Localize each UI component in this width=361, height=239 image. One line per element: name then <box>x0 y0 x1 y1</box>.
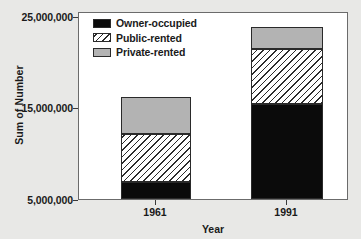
plot-inner: Owner-occupied Public-rented Private-ren… <box>79 13 347 199</box>
bar-1991-segment-private-rented[interactable] <box>251 27 323 49</box>
bar-1961-segment-owner-occupied[interactable] <box>121 182 191 199</box>
legend-item-owner-occupied[interactable]: Owner-occupied <box>93 16 197 31</box>
legend-item-private-rented[interactable]: Private-rented <box>93 45 197 60</box>
stacked-bar-chart: Sum of Number 25,000,000 15,000,000 5,00… <box>0 0 361 239</box>
y-tick-label-15m: 15,000,000 <box>3 102 73 114</box>
legend-label-owner-occupied: Owner-occupied <box>116 17 197 29</box>
legend-label-private-rented: Private-rented <box>116 46 185 58</box>
plot-area: Owner-occupied Public-rented Private-ren… <box>78 12 348 200</box>
y-axis-ticks: 25,000,000 15,000,000 5,000,000 <box>0 0 73 239</box>
legend-swatch-owner-occupied-icon <box>93 19 111 28</box>
y-tick-label-5m: 5,000,000 <box>3 194 73 206</box>
chart-legend: Owner-occupied Public-rented Private-ren… <box>93 16 197 60</box>
legend-swatch-private-rented-icon <box>93 48 111 57</box>
legend-label-public-rented: Public-rented <box>116 32 182 44</box>
x-tick-mark-1961 <box>155 200 156 205</box>
bar-1991-segment-owner-occupied[interactable] <box>251 104 323 199</box>
bar-1961[interactable] <box>121 97 191 199</box>
bar-1961-segment-private-rented[interactable] <box>121 97 191 134</box>
x-tick-label-1961: 1961 <box>115 206 195 218</box>
y-tick-label-25m: 25,000,000 <box>3 11 73 23</box>
x-axis-title: Year <box>78 223 348 235</box>
x-tick-mark-1991 <box>286 200 287 205</box>
legend-swatch-public-rented-icon <box>93 33 111 42</box>
y-tick-mark-5m <box>73 200 78 201</box>
x-tick-label-1991: 1991 <box>246 206 326 218</box>
bar-1991[interactable] <box>251 27 323 199</box>
bar-1961-segment-public-rented[interactable] <box>121 134 191 182</box>
legend-item-public-rented[interactable]: Public-rented <box>93 31 197 46</box>
bar-1991-segment-public-rented[interactable] <box>251 49 323 104</box>
